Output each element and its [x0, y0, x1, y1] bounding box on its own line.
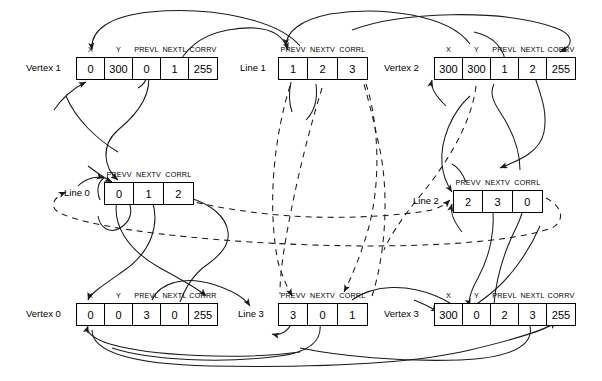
field-prevv[interactable]: PREVV 0: [105, 183, 134, 204]
field-prevv[interactable]: PREVV 1: [279, 58, 308, 79]
field-value-prevl: 1: [501, 63, 507, 75]
record-vertex3: X 300 Y 0 PREVL 2 NEXTL 3 CORRV 255: [434, 303, 576, 326]
field-header-nextl: NEXTL: [161, 291, 188, 300]
field-corrv[interactable]: CORRV 255: [547, 58, 575, 79]
field-nextl[interactable]: NEXTL 2: [519, 58, 547, 79]
field-header-nextv: NEXTV: [483, 178, 511, 187]
field-value-x: 300: [439, 309, 457, 321]
node-label-vertex0: Vertex 0: [26, 309, 61, 319]
record-vertex1: X 0 Y 300 PREVL 0 NEXTL 1 CORRV 255: [76, 57, 218, 80]
field-prevv[interactable]: PREVV 2: [454, 191, 483, 212]
field-nextv[interactable]: NEXTV 3: [483, 191, 512, 212]
field-value-nextv: 2: [319, 63, 325, 75]
field-header-x: X: [435, 291, 462, 300]
field-corrv[interactable]: CORRV 255: [547, 304, 575, 325]
node-label-line3: Line 3: [238, 309, 264, 319]
field-y[interactable]: Y 300: [463, 58, 491, 79]
field-value-prevv: 1: [290, 63, 296, 75]
field-header-nextl: NEXTL: [519, 45, 546, 54]
record-vertex0: X 0 Y 0 PREVL 3 NEXTL 0 CORRR 255: [76, 303, 218, 326]
field-corrv[interactable]: CORRV 255: [189, 58, 217, 79]
field-value-corrl: 2: [175, 188, 181, 200]
field-prevl[interactable]: PREVL 2: [491, 304, 519, 325]
field-value-x: 0: [87, 309, 93, 321]
field-nextv[interactable]: NEXTV 1: [134, 183, 163, 204]
field-value-corrv: 255: [552, 63, 570, 75]
field-value-corrl: 0: [524, 196, 530, 208]
node-label-vertex2: Vertex 2: [384, 63, 419, 73]
field-value-corrv: 255: [194, 63, 212, 75]
field-header-prevl: PREVL: [491, 291, 518, 300]
field-value-corrl: 1: [349, 309, 355, 321]
field-prevl[interactable]: PREVL 3: [133, 304, 161, 325]
field-prevl[interactable]: PREVL 1: [491, 58, 519, 79]
field-y[interactable]: Y 0: [105, 304, 133, 325]
field-value-corrl: 3: [349, 63, 355, 75]
field-header-corrl: CORRL: [164, 170, 193, 179]
record-line3: PREVV 3 NEXTV 0 CORRL 1: [278, 303, 368, 326]
field-header-nextv: NEXTV: [308, 291, 336, 300]
field-x[interactable]: X 300: [435, 304, 463, 325]
field-value-prevl: 3: [143, 309, 149, 321]
field-header-x: X: [77, 291, 104, 300]
field-y[interactable]: Y 0: [463, 304, 491, 325]
field-x[interactable]: X 0: [77, 304, 105, 325]
field-value-prevl: 0: [143, 63, 149, 75]
field-value-prevv: 0: [116, 188, 122, 200]
field-nextv[interactable]: NEXTV 0: [308, 304, 337, 325]
node-label-line2: Line 2: [413, 196, 439, 206]
field-value-y: 300: [467, 63, 485, 75]
field-value-corrr: 255: [194, 309, 212, 321]
field-header-y: Y: [105, 291, 132, 300]
field-corrl[interactable]: CORRL 2: [164, 183, 193, 204]
field-header-corrl: CORRL: [338, 45, 367, 54]
field-corrr[interactable]: CORRR 255: [189, 304, 217, 325]
field-y[interactable]: Y 300: [105, 58, 133, 79]
field-value-nextl: 0: [171, 309, 177, 321]
field-header-x: X: [435, 45, 462, 54]
field-nextv[interactable]: NEXTV 2: [308, 58, 337, 79]
field-header-prevv: PREVV: [105, 170, 133, 179]
field-value-y: 300: [109, 63, 127, 75]
field-header-prevv: PREVV: [279, 45, 307, 54]
field-value-y: 0: [473, 309, 479, 321]
field-header-y: Y: [463, 291, 490, 300]
field-value-nextv: 0: [319, 309, 325, 321]
field-nextl[interactable]: NEXTL 3: [519, 304, 547, 325]
field-header-prevv: PREVV: [279, 291, 307, 300]
record-vertex2: X 300 Y 300 PREVL 1 NEXTL 2 CORRV 255: [434, 57, 576, 80]
field-header-y: Y: [463, 45, 490, 54]
node-label-vertex1: Vertex 1: [26, 63, 61, 73]
field-header-corrl: CORRL: [513, 178, 542, 187]
field-prevl[interactable]: PREVL 0: [133, 58, 161, 79]
field-header-x: X: [77, 45, 104, 54]
field-x[interactable]: X 300: [435, 58, 463, 79]
field-header-corrl: CORRL: [338, 291, 367, 300]
record-line2: PREVV 2 NEXTV 3 CORRL 0: [453, 190, 543, 213]
field-value-nextl: 2: [529, 63, 535, 75]
field-nextl[interactable]: NEXTL 0: [161, 304, 189, 325]
field-x[interactable]: X 0: [77, 58, 105, 79]
field-header-corrv: CORRV: [547, 291, 575, 300]
record-line1: PREVV 1 NEXTV 2 CORRL 3: [278, 57, 368, 80]
field-prevv[interactable]: PREVV 3: [279, 304, 308, 325]
record-line0: PREVV 0 NEXTV 1 CORRL 2: [104, 182, 194, 205]
field-value-x: 0: [87, 63, 93, 75]
field-value-corrv: 255: [552, 309, 570, 321]
field-header-prevl: PREVL: [491, 45, 518, 54]
field-header-y: Y: [105, 45, 132, 54]
field-nextl[interactable]: NEXTL 1: [161, 58, 189, 79]
field-header-prevl: PREVL: [133, 45, 160, 54]
field-value-x: 300: [439, 63, 457, 75]
field-corrl[interactable]: CORRL 3: [338, 58, 367, 79]
field-header-corrr: CORRR: [189, 291, 217, 300]
field-corrl[interactable]: CORRL 1: [338, 304, 367, 325]
field-corrl[interactable]: CORRL 0: [513, 191, 542, 212]
field-value-nextv: 3: [494, 196, 500, 208]
field-header-corrv: CORRV: [547, 45, 575, 54]
node-label-vertex3: Vertex 3: [384, 309, 419, 319]
field-value-nextl: 3: [529, 309, 535, 321]
field-value-prevl: 2: [501, 309, 507, 321]
field-header-prevv: PREVV: [454, 178, 482, 187]
field-value-nextv: 1: [145, 188, 151, 200]
